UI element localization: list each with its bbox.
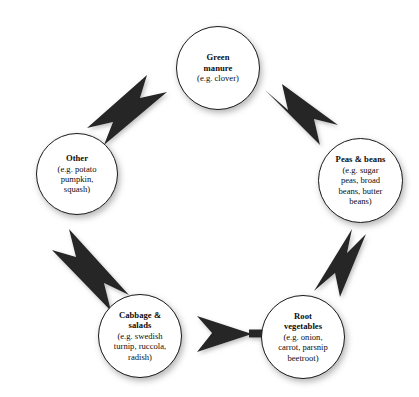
node-green-manure-title: Green manure (204, 52, 233, 73)
node-root-vegetables-title: Root vegetables (284, 311, 322, 332)
node-peas-beans-title: Peas & beans (336, 154, 386, 164)
arrow-green-manure-to-peas-beans (265, 84, 338, 145)
node-other-title: Other (66, 153, 88, 163)
node-cabbage-salads[interactable]: Cabbage & salads (e.g. swedish turnip, r… (98, 294, 182, 378)
node-root-vegetables[interactable]: Root vegetables (e.g. onion, carrot, par… (261, 295, 345, 379)
node-cabbage-salads-example: (e.g. swedish turnip, ruccola, radish) (114, 331, 166, 362)
node-root-vegetables-example: (e.g. onion, carrot, parsnip beetroot) (278, 332, 328, 363)
node-cabbage-salads-title: Cabbage & salads (119, 310, 161, 331)
node-other[interactable]: Other (e.g. potato pumpkin, squash) (36, 133, 118, 215)
node-green-manure-example: (e.g. clover) (197, 73, 239, 83)
arrow-cabbage-salads-to-other (52, 229, 129, 311)
arrow-other-to-green-manure (87, 75, 167, 145)
node-peas-beans-example: (e.g. sugar peas, broad beans, butter be… (339, 165, 383, 207)
node-peas-beans[interactable]: Peas & beans (e.g. sugar peas, broad bea… (318, 138, 403, 223)
node-other-example: (e.g. potato pumpkin, squash) (58, 164, 97, 195)
arrow-root-vegetables-to-cabbage-salads (197, 316, 265, 352)
node-green-manure[interactable]: Green manure (e.g. clover) (176, 26, 260, 110)
crop-rotation-diagram: Green manure (e.g. clover) Peas & beans … (0, 0, 419, 397)
arrow-peas-beans-to-root-vegetables (314, 229, 366, 297)
